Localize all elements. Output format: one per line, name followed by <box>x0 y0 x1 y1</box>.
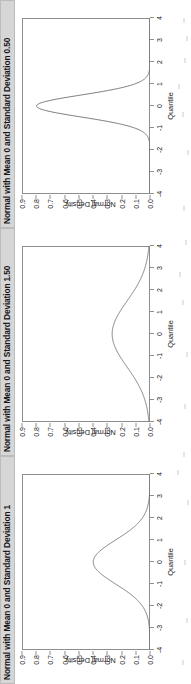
y-tick-mark <box>121 651 122 655</box>
x-tick-label: -4 <box>156 191 163 197</box>
scan-artifact <box>186 352 188 357</box>
x-tick-mark <box>150 517 154 518</box>
scan-artifact <box>187 500 189 505</box>
y-tick-mark <box>78 195 79 199</box>
x-tick-label: 0 <box>156 332 163 336</box>
x-tick-mark <box>150 17 154 18</box>
x-axis-label-1: Quantile <box>166 246 175 422</box>
x-tick-label: 2 <box>156 516 163 520</box>
y-tick-mark <box>36 651 37 655</box>
scan-artifact <box>184 404 186 409</box>
x-tick-mark <box>150 289 154 290</box>
y-tick-mark <box>93 651 94 655</box>
y-tick-label: 0.9 <box>19 199 26 209</box>
y-tick-mark <box>50 423 51 427</box>
x-tick-label: -3 <box>156 169 163 175</box>
x-tick-mark <box>150 333 154 334</box>
x-tick-mark <box>150 61 154 62</box>
x-axis-label-2: Quantile <box>166 474 175 650</box>
x-tick-mark <box>150 193 154 194</box>
x-tick-mark <box>150 627 154 628</box>
x-tick-mark <box>150 83 154 84</box>
x-tick-label: 1 <box>156 538 163 542</box>
density-curve-2 <box>22 474 150 650</box>
y-tick-mark <box>22 423 23 427</box>
y-tick-mark <box>93 423 94 427</box>
panel-slot-0: Normal with Mean 0 and Standard Deviatio… <box>0 0 191 228</box>
density-curve-1 <box>22 246 150 422</box>
density-plot-panel-2: Normal with Mean 0 and Standard Deviatio… <box>0 456 191 684</box>
x-tick-label: 2 <box>156 60 163 64</box>
x-tick-label: -3 <box>156 625 163 631</box>
panel-title-bar-2: Normal with Mean 0 and Standard Deviatio… <box>0 456 15 684</box>
y-tick-mark <box>64 651 65 655</box>
x-tick-mark <box>150 355 154 356</box>
x-tick-label: 4 <box>156 16 163 20</box>
x-axis-2: Quantile -4-3-2-101234 <box>150 474 180 650</box>
x-tick-mark <box>150 583 154 584</box>
y-tick-mark <box>135 423 136 427</box>
figure-page: Normal with Mean 0 and Standard Deviatio… <box>0 0 191 684</box>
plot-area-0: 0.90.80.70.60.50.40.30.20.10.0 Quantile … <box>16 0 191 228</box>
scan-artifact <box>183 18 185 23</box>
x-tick-label: -1 <box>156 125 163 131</box>
x-tick-mark <box>150 421 154 422</box>
y-tick-label: 0.9 <box>19 655 26 665</box>
x-tick-label: 4 <box>156 472 163 476</box>
scan-artifact <box>185 240 187 245</box>
y-tick-mark <box>64 195 65 199</box>
density-plot-panel-1: Normal with Mean 0 and Standard Deviatio… <box>0 228 191 456</box>
x-tick-label: 3 <box>156 494 163 498</box>
y-tick-mark <box>135 195 136 199</box>
x-tick-label: 2 <box>156 288 163 292</box>
x-tick-mark <box>150 495 154 496</box>
x-tick-mark <box>150 39 154 40</box>
x-tick-mark <box>150 127 154 128</box>
scan-artifact <box>179 272 181 277</box>
y-tick-mark <box>107 423 108 427</box>
y-tick-mark <box>36 195 37 199</box>
x-tick-mark <box>150 311 154 312</box>
scan-artifact <box>186 36 188 41</box>
x-tick-label: -2 <box>156 375 163 381</box>
y-tick-mark <box>121 423 122 427</box>
y-tick-mark <box>150 651 151 655</box>
scan-artifact <box>183 206 185 211</box>
scan-artifact <box>177 470 179 475</box>
y-tick-mark <box>78 651 79 655</box>
x-tick-label: -1 <box>156 353 163 359</box>
y-axis-label-1: Normal Density <box>31 428 151 437</box>
scan-artifact <box>183 452 185 457</box>
x-axis-0: Quantile -4-3-2-101234 <box>150 18 180 194</box>
x-tick-label: -2 <box>156 147 163 153</box>
y-tick-mark <box>78 423 79 427</box>
x-tick-mark <box>150 561 154 562</box>
y-tick-mark <box>150 423 151 427</box>
density-plot-panel-0: Normal with Mean 0 and Standard Deviatio… <box>0 0 191 228</box>
scan-artifact <box>184 58 186 63</box>
x-tick-mark <box>150 605 154 606</box>
x-tick-mark <box>150 539 154 540</box>
normal-pdf-path <box>112 246 149 422</box>
density-curve-0 <box>22 18 150 194</box>
panel-slot-1: Normal with Mean 0 and Standard Deviatio… <box>0 228 191 456</box>
y-tick-mark <box>135 651 136 655</box>
normal-pdf-path <box>37 18 150 194</box>
y-tick-mark <box>107 195 108 199</box>
scan-artifact <box>182 660 184 665</box>
x-tick-mark <box>150 149 154 150</box>
y-tick-mark <box>50 195 51 199</box>
panel-title-2: Normal with Mean 0 and Standard Deviatio… <box>2 505 12 680</box>
y-tick-mark <box>22 651 23 655</box>
x-axis-1: Quantile -4-3-2-101234 <box>150 246 180 422</box>
plot-area-1: 0.90.80.70.60.50.40.30.20.10.0 Quantile … <box>16 228 191 456</box>
y-tick-mark <box>121 195 122 199</box>
x-axis-label-0: Quantile <box>166 18 175 194</box>
x-tick-mark <box>150 105 154 106</box>
y-tick-mark <box>150 195 151 199</box>
y-tick-label: 0.9 <box>19 427 26 437</box>
scan-artifact <box>182 112 184 117</box>
x-tick-label: -1 <box>156 581 163 587</box>
y-tick-mark <box>64 423 65 427</box>
x-tick-label: -2 <box>156 603 163 609</box>
